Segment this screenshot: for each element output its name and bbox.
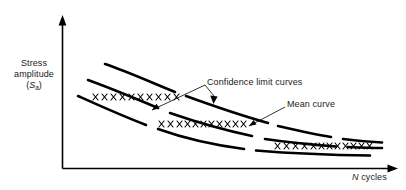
- y-axis-label-symbol: (Sa): [6, 80, 62, 91]
- diagram-canvas: [0, 0, 406, 190]
- y-axis-label-line1: Stress: [6, 58, 62, 69]
- x-axis-label: N cycles: [352, 172, 387, 183]
- x-axis-label-symbol: N: [352, 172, 359, 182]
- mean-curve-leader-arrowhead: [249, 120, 257, 126]
- mean-curve-label: Mean curve: [287, 99, 335, 110]
- x-axis-label-text: cycles: [359, 172, 387, 182]
- confidence-limit-leader-line: [152, 85, 218, 110]
- fatigue-sn-diagram: Stress amplitude (Sa) N cycles Confidenc…: [0, 0, 406, 190]
- y-axis-label: Stress amplitude (Sa): [6, 58, 62, 91]
- axes-group: [59, 15, 398, 172]
- y-axis-label-paren-close: ): [39, 80, 42, 90]
- y-axis-label-symbol-subscript: a: [35, 84, 39, 91]
- x-axis-arrowhead: [388, 165, 399, 173]
- y-axis-label-line2: amplitude: [6, 69, 62, 80]
- y-axis-arrowhead: [59, 15, 67, 26]
- confidence-limit-curves-label: Confidence limit curves: [207, 77, 302, 88]
- confidence-limit-leader-arrowhead-2: [210, 96, 217, 104]
